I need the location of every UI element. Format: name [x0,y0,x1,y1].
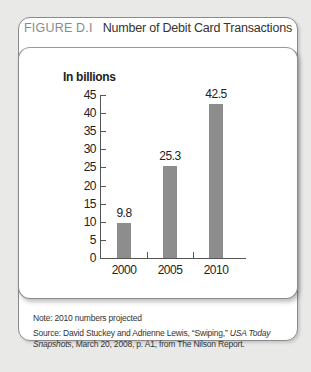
chart-note: Note: 2010 numbers projected [33,313,142,323]
figure-title: FIGURE D.INumber of Debit Card Transacti… [24,21,292,35]
chart-source: Source: David Stuckey and Adrienne Lewis… [33,328,293,350]
figure-label: FIGURE D.I [24,21,93,35]
chart-panel [18,47,298,299]
figure-title-text: Number of Debit Card Transactions [103,21,292,35]
